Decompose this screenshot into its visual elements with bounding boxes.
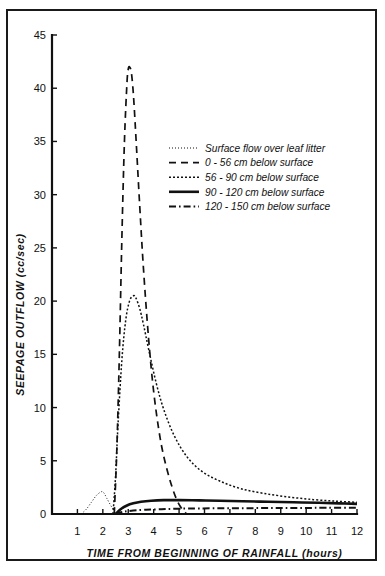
- series-line-1: [81, 492, 115, 514]
- x-axis-title: TIME FROM BEGINNING OF RAINFALL (hours): [87, 547, 343, 559]
- y-tick-label: 40: [34, 82, 46, 94]
- series-line-3: [113, 296, 357, 514]
- x-tick-label: 3: [125, 525, 131, 537]
- axis-lines: [52, 35, 357, 514]
- y-axis-title: SEEPAGE OUTFLOW (cc/sec): [14, 233, 26, 395]
- x-tick-label: 5: [176, 525, 182, 537]
- data-series: [81, 67, 357, 514]
- chart-legend: Surface flow over leaf litter0 - 56 cm b…: [169, 143, 330, 212]
- legend-label-1: Surface flow over leaf litter: [205, 143, 326, 154]
- x-tick-label: 9: [278, 525, 284, 537]
- seepage-outflow-chart: 051015202530354045123456789101112 Surfac…: [8, 11, 375, 559]
- y-tick-label: 45: [34, 29, 46, 41]
- x-tick-label: 6: [201, 525, 207, 537]
- x-tick-label: 10: [300, 525, 312, 537]
- x-tick-label: 8: [252, 525, 258, 537]
- axis-titles: TIME FROM BEGINNING OF RAINFALL (hours)S…: [14, 233, 342, 559]
- y-tick-label: 15: [34, 348, 46, 360]
- x-tick-label: 1: [74, 525, 80, 537]
- legend-label-4: 90 - 120 cm below surface: [205, 187, 325, 198]
- y-tick-label: 0: [40, 508, 46, 520]
- legend-label-2: 0 - 56 cm below surface: [205, 157, 313, 168]
- x-tick-label: 2: [100, 525, 106, 537]
- y-tick-label: 5: [40, 455, 46, 467]
- figure-frame: 051015202530354045123456789101112 Surfac…: [6, 9, 377, 561]
- x-tick-label: 4: [151, 525, 157, 537]
- y-tick-label: 25: [34, 242, 46, 254]
- y-tick-label: 20: [34, 295, 46, 307]
- axes: 051015202530354045123456789101112: [34, 29, 363, 537]
- legend-label-5: 120 - 150 cm below surface: [205, 201, 330, 212]
- x-tick-label: 7: [227, 525, 233, 537]
- y-tick-label: 10: [34, 402, 46, 414]
- x-tick-label: 11: [326, 525, 337, 537]
- series-line-2: [114, 67, 186, 514]
- y-tick-label: 30: [34, 189, 46, 201]
- legend-label-3: 56 - 90 cm below surface: [205, 172, 319, 183]
- x-tick-label: 12: [351, 525, 363, 537]
- y-tick-label: 35: [34, 135, 46, 147]
